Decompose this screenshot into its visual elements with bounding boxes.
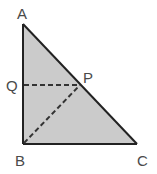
label-a: A (17, 5, 27, 22)
label-c: C (137, 152, 148, 169)
label-b: B (15, 152, 25, 169)
label-q: Q (6, 77, 18, 94)
triangle-diagram: A Q P B C (0, 0, 157, 174)
label-p: P (83, 69, 93, 86)
